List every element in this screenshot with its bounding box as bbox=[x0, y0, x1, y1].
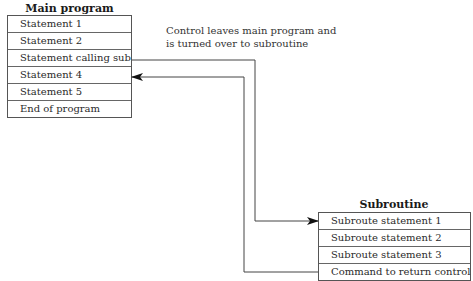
subroutine-title: Subroutine bbox=[318, 198, 470, 211]
subroutine-box: Subroute statement 1 Subroute statement … bbox=[318, 212, 471, 281]
sub-statement-3: Subroute statement 3 bbox=[319, 247, 470, 264]
sub-statement-2: Subroute statement 2 bbox=[319, 230, 470, 247]
return-arrow bbox=[132, 77, 318, 272]
sub-statement-1: Subroute statement 1 bbox=[319, 213, 470, 230]
call-arrow bbox=[132, 60, 318, 221]
sub-return-command: Command to return control bbox=[319, 264, 470, 281]
